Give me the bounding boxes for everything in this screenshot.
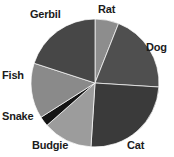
- pie-chart: Rat Dog Cat Budgie Snake Fish Gerbil: [0, 0, 174, 157]
- pie-label-fish: Fish: [2, 70, 24, 81]
- pie-label-snake: Snake: [2, 111, 33, 122]
- pie-label-rat: Rat: [98, 4, 115, 15]
- pie-slice-cat: [91, 83, 159, 147]
- pie-label-budgie: Budgie: [32, 140, 68, 151]
- pie-label-cat: Cat: [127, 140, 144, 151]
- pie-label-gerbil: Gerbil: [30, 9, 61, 20]
- pie-slices-group: [31, 19, 159, 147]
- pie-label-dog: Dog: [146, 42, 167, 53]
- pie-chart-canvas: [0, 0, 174, 157]
